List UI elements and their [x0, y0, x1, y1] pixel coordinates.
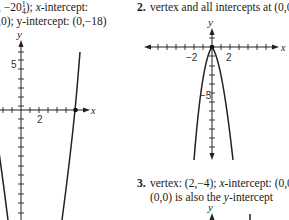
- graph2-x-label: x: [280, 42, 286, 53]
- graph3-y-label: y: [207, 201, 213, 213]
- x-intercept-point: [73, 108, 78, 113]
- graph2-x-tick-2: 2: [226, 52, 232, 63]
- graph1-x-label: x: [90, 105, 96, 116]
- x-axis-right-arrow-icon: [272, 45, 279, 50]
- graph2-y-label: y: [207, 16, 213, 28]
- vertex-point: [210, 45, 215, 50]
- graphs: y x 5 2: [0, 0, 289, 220]
- parabola-right-branch: [62, 52, 80, 220]
- graph2-x-tick-neg2: −2: [186, 52, 198, 63]
- y-axis-arrow-icon: [19, 40, 24, 47]
- parabola-left-branch: [0, 145, 8, 220]
- graph3: [210, 213, 251, 220]
- x-axis-arrow-icon: [83, 108, 90, 113]
- graph2-y-tick-neg5: −5: [200, 90, 212, 101]
- parabola: [194, 47, 233, 160]
- y-axis-arrow-icon: [210, 213, 215, 220]
- graph1-y-label: y: [16, 28, 22, 40]
- y-axis-up-arrow-icon: [210, 28, 215, 35]
- graph1-y-tick-5: 5: [11, 59, 17, 70]
- graph2: [144, 28, 279, 160]
- y-axis-down-arrow-icon: [210, 153, 215, 160]
- x-axis-left-arrow-icon: [144, 45, 151, 50]
- graph1-x-tick-2: 2: [37, 114, 43, 125]
